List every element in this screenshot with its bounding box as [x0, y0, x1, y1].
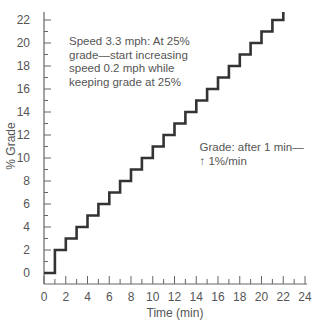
- x-tick-label: 20: [255, 290, 269, 304]
- y-tick-label: 4: [23, 220, 30, 234]
- annotation-2: Grade: after 1 min—↑ 1%/min: [200, 141, 305, 167]
- x-tick-label: 10: [146, 290, 160, 304]
- y-tick-label: 16: [17, 82, 31, 96]
- y-tick-label: 0: [23, 266, 30, 280]
- x-tick-label: 2: [62, 290, 69, 304]
- annotation-1: Speed 3.3 mph: At 25%grade—start increas…: [69, 35, 190, 88]
- y-tick-label: 6: [23, 197, 30, 211]
- y-tick-label: 18: [17, 59, 31, 73]
- x-tick-label: 22: [277, 290, 291, 304]
- x-tick-label: 0: [41, 290, 48, 304]
- y-tick-label: 20: [17, 36, 31, 50]
- annotations: Speed 3.3 mph: At 25%grade—start increas…: [69, 35, 304, 166]
- x-tick-label: 8: [128, 290, 135, 304]
- y-tick-label: 12: [17, 128, 31, 142]
- chart-canvas: 0246810121416182022024681012141618202224…: [0, 0, 320, 324]
- x-tick-label: 14: [190, 290, 204, 304]
- grade-step-chart: 0246810121416182022024681012141618202224…: [0, 0, 320, 324]
- x-tick-label: 4: [84, 290, 91, 304]
- y-tick-label: 10: [17, 151, 31, 165]
- y-tick-label: 14: [17, 105, 31, 119]
- x-tick-label: 12: [168, 290, 182, 304]
- x-tick-label: 16: [211, 290, 225, 304]
- x-tick-label: 18: [233, 290, 247, 304]
- x-tick-label: 6: [106, 290, 113, 304]
- x-tick-label: 24: [298, 290, 312, 304]
- y-tick-label: 2: [23, 243, 30, 257]
- y-tick-label: 22: [17, 13, 31, 27]
- x-axis-title: Time (min): [147, 306, 204, 320]
- y-axis-title: % Grade: [4, 122, 18, 170]
- y-tick-label: 8: [23, 174, 30, 188]
